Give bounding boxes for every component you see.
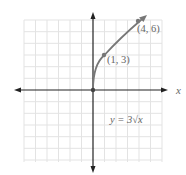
point-4-6-label: (4, 6)	[137, 23, 160, 35]
arrow-left-icon	[14, 88, 21, 93]
equation-label: y = 3√x	[109, 114, 143, 125]
y-axis	[91, 12, 96, 173]
arrow-right-icon	[161, 88, 168, 93]
coordinate-plane: x (1, 3) (4, 6) y = 3√x	[0, 0, 186, 175]
origin-point	[91, 88, 95, 92]
point-1-3-label: (1, 3)	[107, 54, 130, 66]
arrow-up-icon	[91, 12, 96, 19]
point-1-3	[102, 53, 106, 57]
x-axis-label: x	[175, 84, 181, 96]
arrow-down-icon	[91, 166, 96, 173]
